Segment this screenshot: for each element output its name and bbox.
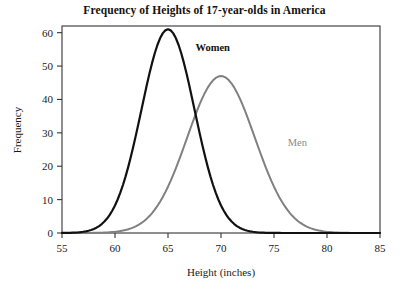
curve-label-women: Women (196, 42, 231, 53)
y-tick-label: 40 (42, 93, 54, 105)
y-tick-label: 50 (42, 60, 54, 72)
y-tick-label: 0 (48, 227, 54, 239)
y-axis-title: Frequency (11, 106, 23, 153)
x-tick-label: 70 (216, 242, 228, 254)
x-tick-label: 80 (322, 242, 334, 254)
x-tick-label: 65 (163, 242, 175, 254)
chart-container: Frequency of Heights of 17-year-olds in … (0, 0, 409, 291)
y-tick-label: 10 (42, 194, 54, 206)
plot-area: 55606570758085 0102030405060 Women Men H… (0, 0, 409, 291)
x-tick-label: 85 (375, 242, 387, 254)
y-tick-label: 60 (42, 27, 54, 39)
curve-label-men: Men (288, 137, 308, 148)
x-axis-title: Height (inches) (187, 266, 255, 279)
y-axis-ticks: 0102030405060 (42, 27, 62, 239)
x-axis-ticks: 55606570758085 (57, 233, 387, 254)
x-tick-label: 75 (269, 242, 281, 254)
x-tick-label: 55 (57, 242, 69, 254)
y-tick-label: 30 (42, 127, 54, 139)
plot-frame (62, 26, 380, 233)
y-tick-label: 20 (42, 160, 54, 172)
x-tick-label: 60 (110, 242, 122, 254)
curve-women (62, 29, 380, 233)
curve-men (62, 76, 380, 233)
